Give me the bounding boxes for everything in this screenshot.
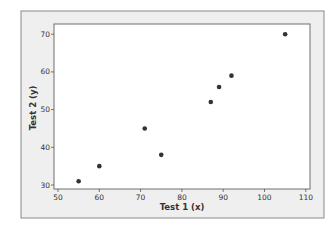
x-axis-label: Test 1 (x) [160, 202, 205, 212]
data-point [97, 164, 102, 169]
x-tick-label: 100 [257, 193, 272, 202]
plot-area [54, 24, 310, 189]
data-point [209, 100, 214, 105]
y-tick-label: 50 [40, 105, 50, 114]
data-point [159, 153, 164, 158]
scatter-chart: 5060708090100110 3040506070 Test 1 (x) T… [0, 0, 336, 229]
y-tick-label: 40 [40, 143, 50, 152]
x-tick-label: 50 [53, 193, 63, 202]
x-tick-label: 90 [218, 193, 228, 202]
x-tick-label: 60 [95, 193, 105, 202]
y-tick-label: 60 [40, 67, 50, 76]
x-tick-label: 70 [136, 193, 146, 202]
x-tick-label: 80 [177, 193, 187, 202]
y-tick-label: 70 [40, 30, 50, 39]
y-axis-label: Test 2 (y) [28, 86, 38, 131]
y-tick-label: 30 [40, 181, 50, 190]
data-point [142, 126, 147, 131]
data-point [229, 73, 234, 78]
x-tick-label: 110 [299, 193, 314, 202]
data-point [283, 32, 288, 37]
data-point [76, 179, 81, 184]
data-point [217, 85, 222, 90]
